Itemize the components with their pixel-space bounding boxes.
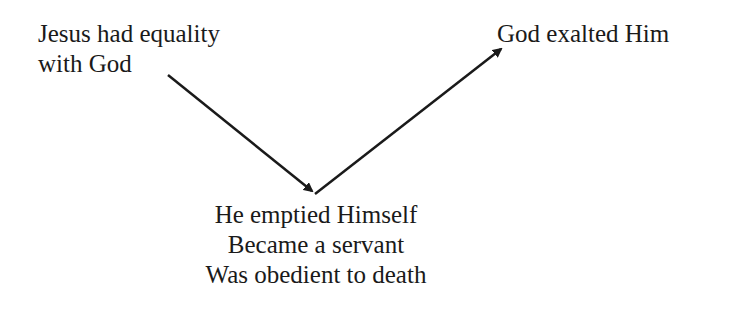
arrows-layer	[0, 0, 744, 315]
arrow-up-icon	[315, 49, 501, 194]
arrow-down-icon	[168, 75, 312, 191]
